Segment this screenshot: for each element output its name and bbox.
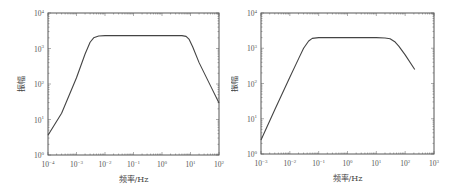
y-tick-label: 102 bbox=[247, 79, 258, 89]
x-tick-label: 10−1 bbox=[127, 160, 140, 170]
y-tick-label: 104 bbox=[247, 9, 258, 19]
x-tick-label: 100 bbox=[343, 159, 354, 169]
x-tick-label: 10−3 bbox=[255, 159, 268, 169]
y-axis-label: 振幅 bbox=[231, 76, 239, 92]
x-tick-label: 102 bbox=[400, 159, 411, 169]
y-tick-label: 100 bbox=[247, 150, 258, 160]
y-tick-label: 103 bbox=[247, 44, 258, 54]
x-axis-label: 频率/Hz bbox=[119, 174, 149, 184]
x-tick-label: 10−1 bbox=[312, 159, 325, 169]
y-tick-label: 101 bbox=[34, 115, 45, 125]
y-tick-label: 101 bbox=[247, 114, 258, 124]
x-tick-label: 101 bbox=[186, 160, 197, 170]
chart-right-svg: 10−310−210−1100101102103100101102103104频… bbox=[231, 0, 462, 186]
amplitude-curve bbox=[261, 38, 415, 140]
x-axis-label: 频率/Hz bbox=[333, 173, 363, 183]
x-tick-label: 10−2 bbox=[283, 159, 296, 169]
chart-left-svg: 10−410−310−210−1100101102100101102103104… bbox=[0, 0, 231, 186]
y-axis-label: 振幅 bbox=[16, 76, 26, 92]
x-tick-label: 100 bbox=[157, 160, 168, 170]
x-tick-label: 102 bbox=[214, 160, 225, 170]
x-tick-label: 101 bbox=[371, 159, 382, 169]
chart-right: 10−310−210−1100101102103100101102103104频… bbox=[231, 0, 462, 186]
chart-left: 10−410−310−210−1100101102100101102103104… bbox=[0, 0, 231, 186]
y-tick-label: 103 bbox=[34, 44, 45, 54]
x-tick-label: 10−2 bbox=[99, 160, 112, 170]
y-tick-label: 102 bbox=[34, 80, 45, 90]
x-tick-label: 10−4 bbox=[42, 160, 55, 170]
x-tick-label: 10−3 bbox=[70, 160, 83, 170]
y-tick-label: 100 bbox=[34, 151, 45, 161]
x-tick-label: 103 bbox=[429, 159, 440, 169]
y-tick-label: 104 bbox=[34, 9, 45, 19]
amplitude-curve bbox=[48, 36, 219, 136]
